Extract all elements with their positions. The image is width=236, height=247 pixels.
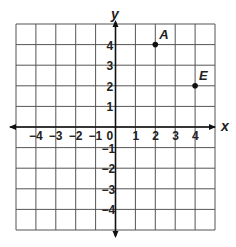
y-tick-label: −4 bbox=[102, 203, 116, 217]
y-axis-label: y bbox=[110, 6, 120, 22]
data-points: AE bbox=[153, 27, 209, 89]
x-tick-label: 2 bbox=[152, 129, 159, 143]
point-e bbox=[192, 83, 198, 89]
point-label-a: A bbox=[158, 27, 168, 42]
y-axis-down-arrow-icon bbox=[113, 231, 119, 238]
x-tick-label: −1 bbox=[89, 129, 103, 143]
x-tick-label: −2 bbox=[69, 129, 83, 143]
y-tick-label: −2 bbox=[102, 162, 116, 176]
y-tick-label: 3 bbox=[107, 59, 114, 73]
y-tick-label: 1 bbox=[107, 100, 114, 114]
x-axis-left-arrow-icon bbox=[9, 124, 16, 130]
y-tick-label: −1 bbox=[102, 142, 116, 156]
coordinate-plane: −4−3−2−1012344321−1−2−3−4 AE x y bbox=[0, 0, 236, 247]
y-tick-label: 4 bbox=[107, 39, 114, 53]
x-tick-label: 3 bbox=[172, 129, 179, 143]
x-tick-label: −3 bbox=[49, 129, 63, 143]
point-a bbox=[153, 42, 159, 48]
y-tick-label: −3 bbox=[102, 183, 116, 197]
x-tick-label: 4 bbox=[192, 129, 199, 143]
y-tick-label: 2 bbox=[107, 80, 114, 94]
x-axis-label: x bbox=[220, 118, 230, 134]
point-label-e: E bbox=[199, 68, 208, 83]
x-tick-label: 1 bbox=[132, 129, 139, 143]
x-tick-label: −4 bbox=[29, 129, 43, 143]
